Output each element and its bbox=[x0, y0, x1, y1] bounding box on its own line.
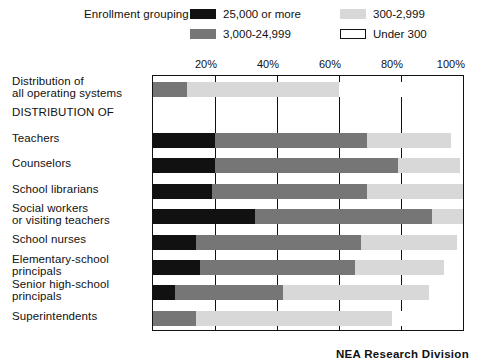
bar-segment bbox=[367, 184, 463, 199]
bar-segment bbox=[196, 311, 391, 326]
chart-legend: Enrollment grouping 25,000 or more 300-2… bbox=[0, 6, 485, 50]
bar-segment bbox=[392, 311, 463, 326]
bar-segment bbox=[153, 158, 215, 173]
stacked-bar bbox=[153, 209, 463, 224]
bar-segment bbox=[153, 235, 196, 250]
legend-item-label: Under 300 bbox=[373, 28, 427, 40]
stacked-bar bbox=[153, 133, 463, 148]
stacked-bar bbox=[153, 285, 463, 300]
bar-segment bbox=[200, 260, 355, 275]
x-axis-tick-label: 20% bbox=[195, 58, 217, 70]
light-gray-swatch-icon bbox=[340, 9, 366, 19]
source-credit: NEA Research Division bbox=[336, 348, 469, 360]
category-label: Superintendents bbox=[12, 311, 152, 323]
category-label: School nurses bbox=[12, 234, 152, 246]
white-swatch-icon bbox=[340, 29, 366, 39]
category-label: Elementary-school principals bbox=[12, 254, 152, 277]
category-label: Distribution of all operating systems bbox=[12, 76, 152, 99]
legend-item-under-300: Under 300 bbox=[340, 28, 427, 40]
x-axis-tick-label: 60% bbox=[319, 58, 341, 70]
category-labels: Distribution of all operating systemsDIS… bbox=[0, 75, 150, 329]
legend-item-3000-24999: 3,000-24,999 bbox=[190, 28, 291, 40]
bar-segment bbox=[153, 260, 200, 275]
category-label: Teachers bbox=[12, 133, 152, 145]
bar-segment bbox=[153, 133, 215, 148]
bar-segment bbox=[215, 158, 398, 173]
stacked-bar bbox=[153, 158, 463, 173]
legend-item-25000-or-more: 25,000 or more bbox=[190, 8, 301, 20]
bar-segment bbox=[196, 235, 360, 250]
chart-figure: Enrollment grouping 25,000 or more 300-2… bbox=[0, 0, 485, 364]
stacked-bar bbox=[153, 235, 463, 250]
legend-item-label: 3,000-24,999 bbox=[223, 28, 291, 40]
bar-segment bbox=[460, 158, 463, 173]
bar-segment bbox=[429, 285, 463, 300]
bar-segment bbox=[283, 285, 429, 300]
plot-area bbox=[152, 75, 464, 331]
bar-segment bbox=[255, 209, 432, 224]
stacked-bar bbox=[153, 82, 463, 97]
legend-title: Enrollment grouping bbox=[84, 8, 189, 20]
category-label: School librarians bbox=[12, 184, 152, 196]
bar-segment bbox=[187, 82, 339, 97]
bar-segment bbox=[457, 235, 463, 250]
x-axis-tick-label: 40% bbox=[257, 58, 279, 70]
stacked-bar bbox=[153, 184, 463, 199]
bar-segment bbox=[175, 285, 284, 300]
bar-segment bbox=[339, 82, 463, 97]
category-label: Counselors bbox=[12, 158, 152, 170]
x-axis-tick-label: 100% bbox=[437, 58, 465, 70]
bar-segment bbox=[451, 133, 463, 148]
bar-segment bbox=[361, 235, 457, 250]
bar-segment bbox=[153, 209, 255, 224]
stacked-bar bbox=[153, 311, 463, 326]
category-label: Social workers or visiting teachers bbox=[12, 203, 152, 226]
black-swatch-icon bbox=[190, 9, 216, 19]
bar-segment bbox=[367, 133, 451, 148]
bar-segment bbox=[153, 82, 187, 97]
category-label: Senior high-school principals bbox=[12, 279, 152, 302]
bar-segment bbox=[153, 285, 175, 300]
x-axis-tick-labels: 20%40%60%80%100% bbox=[0, 58, 485, 72]
bar-segment bbox=[153, 184, 212, 199]
legend-item-label: 25,000 or more bbox=[223, 8, 301, 20]
category-group-heading: DISTRIBUTION OF bbox=[12, 107, 152, 119]
bar-segment bbox=[212, 184, 367, 199]
dark-gray-swatch-icon bbox=[190, 29, 216, 39]
bar-segment bbox=[432, 209, 463, 224]
stacked-bar bbox=[153, 260, 463, 275]
bar-segment bbox=[215, 133, 367, 148]
bar-segment bbox=[444, 260, 463, 275]
legend-item-label: 300-2,999 bbox=[373, 8, 425, 20]
bar-segment bbox=[355, 260, 445, 275]
legend-item-300-2999: 300-2,999 bbox=[340, 8, 425, 20]
x-axis-tick-label: 80% bbox=[381, 58, 403, 70]
bar-segment bbox=[398, 158, 460, 173]
bar-segment bbox=[153, 311, 196, 326]
